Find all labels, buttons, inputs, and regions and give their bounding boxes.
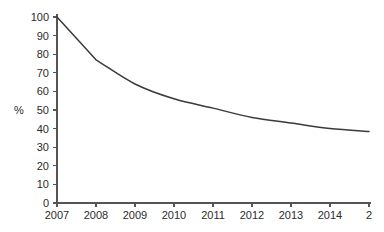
x-tick-label: 2009: [123, 209, 147, 221]
chart-canvas: 1009080706050403020100 20072008200920102…: [0, 0, 384, 232]
line-chart: 1009080706050403020100 20072008200920102…: [0, 0, 384, 232]
y-tick-label: 10: [37, 178, 49, 190]
y-tick-label: 50: [37, 104, 49, 116]
x-tick-label: 2: [366, 209, 372, 221]
x-tick-label: 2014: [318, 209, 342, 221]
x-axis-tick-labels: 200720082009201020112012201320142: [45, 209, 372, 221]
y-axis-title: %: [14, 104, 24, 116]
y-tick-label: 30: [37, 141, 49, 153]
x-tick-label: 2012: [240, 209, 264, 221]
y-tick-label: 90: [37, 30, 49, 42]
x-tick-label: 2011: [201, 209, 225, 221]
x-tick-label: 2010: [162, 209, 186, 221]
chart-background: [0, 0, 384, 232]
y-tick-label: 40: [37, 123, 49, 135]
x-tick-label: 2007: [45, 209, 69, 221]
y-tick-label: 100: [31, 11, 49, 23]
y-tick-label: 70: [37, 67, 49, 79]
y-tick-label: 0: [43, 197, 49, 209]
x-tick-label: 2013: [279, 209, 303, 221]
y-tick-label: 60: [37, 85, 49, 97]
x-tick-label: 2008: [84, 209, 108, 221]
y-tick-label: 80: [37, 48, 49, 60]
y-tick-label: 20: [37, 160, 49, 172]
